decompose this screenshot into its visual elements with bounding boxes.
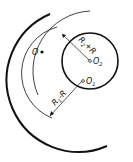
diagram-canvas: O O2 O1 R2+R R1-R [0,0,133,162]
svg-text:R2+R: R2+R [76,35,98,57]
center-o2 [89,60,92,63]
label-center-o1: O1 [86,77,95,87]
center-o1 [82,80,85,83]
label-point-o: O [32,48,38,57]
arrowhead [50,111,54,116]
label-center-o2: O2 [93,57,102,67]
label-r2-plus-r: R2+R [76,35,98,57]
locus-arc-r1-minus-r [22,27,57,118]
point-o [40,50,43,53]
